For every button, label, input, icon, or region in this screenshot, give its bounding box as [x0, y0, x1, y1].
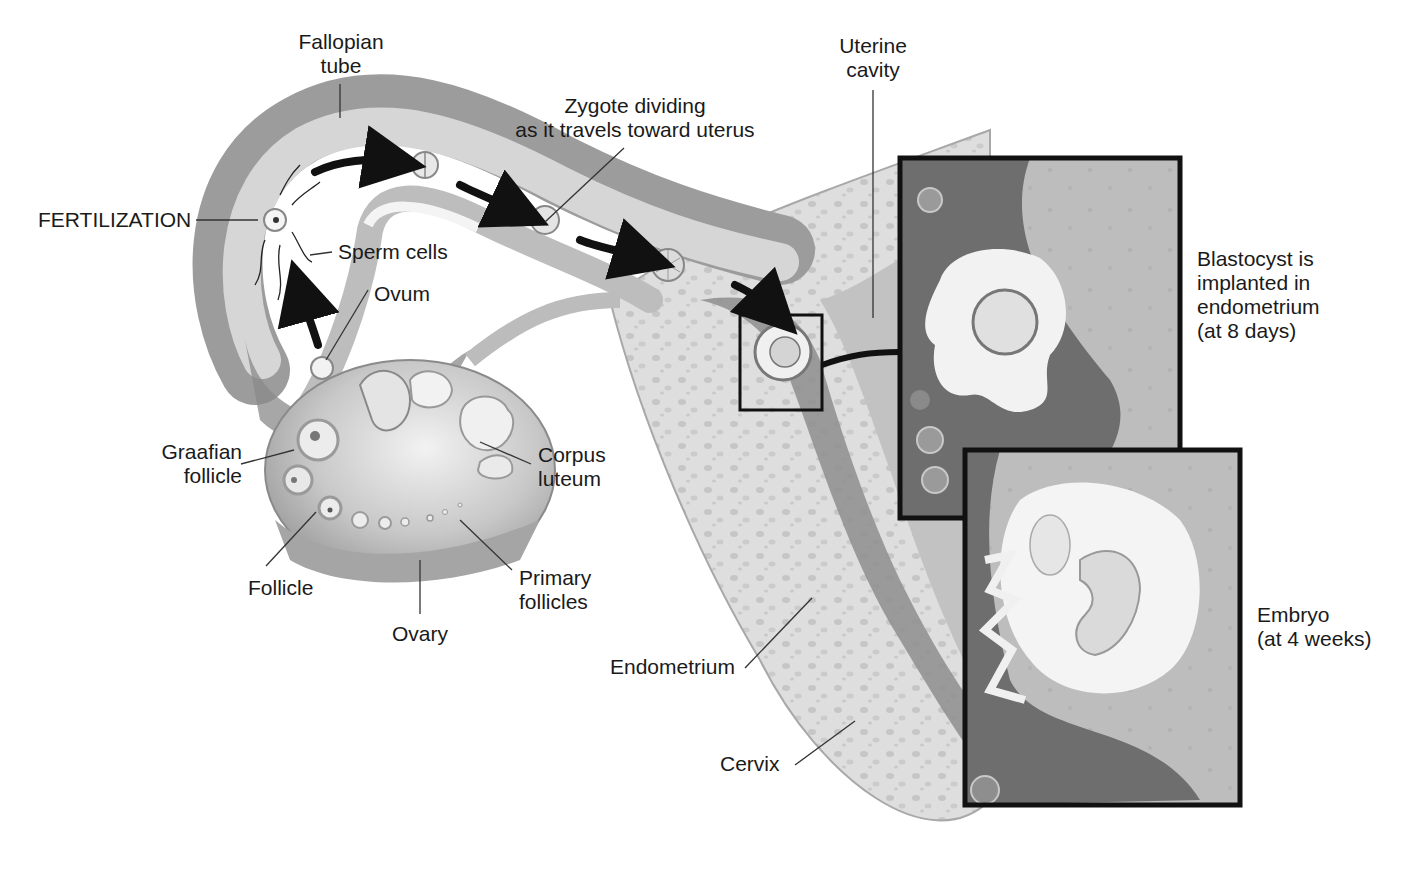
label-line: follicles — [519, 590, 591, 614]
label-ovum: Ovum — [374, 282, 430, 306]
label-sperm-cells: Sperm cells — [338, 240, 448, 264]
embryo-inset — [965, 450, 1240, 805]
label-line: Fallopian — [295, 30, 387, 54]
label-primary-follicles: Primary follicles — [519, 566, 591, 614]
label-line: luteum — [538, 467, 606, 491]
label-fallopian-tube: Fallopian tube — [295, 30, 387, 78]
label-fertilization: FERTILIZATION — [38, 208, 190, 232]
label-graafian-follicle: Graafian follicle — [130, 440, 242, 488]
ovarian-ligament — [470, 300, 620, 360]
label-line: Primary — [519, 566, 591, 590]
label-line: as it travels toward uterus — [500, 118, 770, 142]
label-corpus-luteum: Corpus luteum — [538, 443, 606, 491]
label-line: follicle — [130, 464, 242, 488]
ovary — [265, 360, 555, 583]
label-line: Uterine — [826, 34, 920, 58]
label-line: (at 8 days) — [1197, 319, 1320, 343]
label-line: Zygote dividing — [500, 94, 770, 118]
label-ovary: Ovary — [378, 622, 462, 646]
label-blastocyst: Blastocyst is implanted in endometrium (… — [1197, 247, 1320, 343]
label-line: tube — [295, 54, 387, 78]
label-line: Blastocyst is — [1197, 247, 1320, 271]
label-embryo: Embryo (at 4 weeks) — [1257, 603, 1371, 651]
label-line: Embryo — [1257, 603, 1371, 627]
label-line: Corpus — [538, 443, 606, 467]
label-line: endometrium — [1197, 295, 1320, 319]
label-line: implanted in — [1197, 271, 1320, 295]
label-cervix: Cervix — [720, 752, 780, 776]
label-zygote-dividing: Zygote dividing as it travels toward ute… — [500, 94, 770, 142]
label-follicle: Follicle — [248, 576, 313, 600]
label-line: Graafian — [130, 440, 242, 464]
label-endometrium: Endometrium — [610, 655, 735, 679]
diagram-stage: Fallopian tube FERTILIZATION Sperm cells… — [0, 0, 1412, 871]
label-uterine-cavity: Uterine cavity — [826, 34, 920, 82]
label-line: cavity — [826, 58, 920, 82]
label-line: (at 4 weeks) — [1257, 627, 1371, 651]
